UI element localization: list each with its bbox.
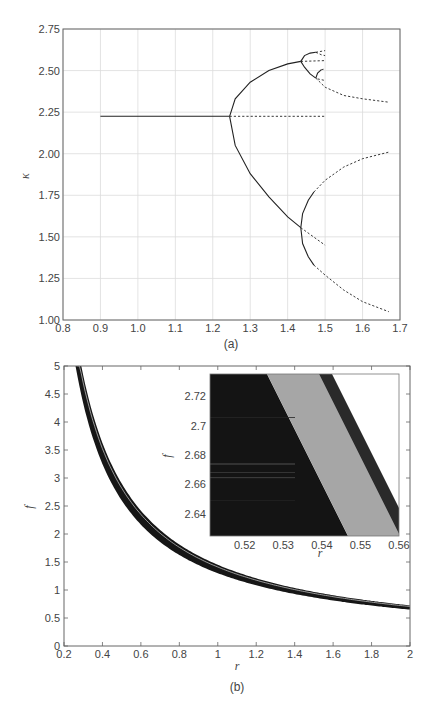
series-line — [301, 228, 325, 246]
y-tick-label: 4 — [54, 416, 60, 428]
y-tick-label: 1.75 — [39, 189, 60, 201]
y-tick-label: 2 — [54, 528, 60, 540]
inset-x-tick-label: 0.55 — [350, 539, 371, 551]
x-tick-label: 0.4 — [95, 648, 110, 660]
x-tick-label: 1.5 — [317, 322, 332, 334]
y-tick-label: 3 — [54, 472, 60, 484]
chart-a-series — [100, 51, 388, 312]
inset-x-tick-label: 0.56 — [388, 539, 409, 551]
x-tick-label: 2 — [407, 648, 413, 660]
chart-b-y-axis-label: f — [22, 504, 36, 509]
y-tick-label: 2.25 — [39, 106, 60, 118]
x-tick-label: 1 — [215, 648, 221, 660]
inset-stripe — [210, 472, 295, 473]
x-tick-label: 1.7 — [392, 322, 407, 334]
inset-y-tick-label: 2.64 — [185, 508, 206, 520]
series-line — [230, 61, 301, 116]
series-line — [301, 228, 314, 265]
y-tick-label: 1.25 — [39, 272, 60, 284]
chart-b-caption: (b) — [230, 680, 245, 694]
chart-a-caption: (a) — [224, 337, 239, 351]
chart-a-y-tick-labels: 1.001.251.501.752.002.252.502.75 — [39, 23, 60, 326]
x-tick-label: 1.1 — [168, 322, 183, 334]
series-line — [301, 61, 325, 62]
inset-y-tick-label: 2.7 — [191, 420, 206, 432]
chart-a-bifurcation-diagram: 0.80.91.01.11.21.31.41.51.61.7 1.001.251… — [18, 23, 408, 351]
chart-a-y-axis-label: κ — [18, 173, 32, 179]
inset-stripe — [210, 477, 295, 478]
figure: 0.80.91.01.11.21.31.41.51.61.7 1.001.251… — [0, 0, 431, 706]
y-tick-label: 1.50 — [39, 231, 60, 243]
y-tick-label: 4.5 — [45, 388, 60, 400]
inset-stripe — [210, 417, 295, 418]
chart-b-x-axis-label: r — [235, 659, 240, 673]
y-tick-label: 0.5 — [45, 612, 60, 624]
y-tick-label: 2.50 — [39, 65, 60, 77]
y-tick-label: 1.5 — [45, 556, 60, 568]
chart-a-frame — [63, 29, 400, 320]
x-tick-label: 0.9 — [93, 322, 108, 334]
series-line — [301, 61, 316, 78]
y-tick-label: 5 — [54, 360, 60, 372]
inset-stripe — [210, 463, 295, 465]
x-tick-label: 1.2 — [205, 322, 220, 334]
x-tick-label: 1.4 — [280, 322, 295, 334]
inset-y-axis-label: f — [160, 453, 174, 458]
chart-a-grid — [63, 29, 400, 320]
series-line — [318, 79, 326, 81]
y-tick-label: 2.75 — [39, 23, 60, 35]
inset-x-tick-label: 0.52 — [234, 539, 255, 551]
series-line — [316, 78, 389, 102]
inset-y-tick-label: 2.66 — [185, 478, 206, 490]
x-tick-label: 0.6 — [133, 648, 148, 660]
x-tick-label: 1.6 — [355, 322, 370, 334]
series-line — [321, 69, 325, 70]
series-line — [316, 51, 325, 53]
inset-x-tick-label: 0.53 — [273, 539, 294, 551]
inset-y-tick-label: 2.68 — [185, 449, 206, 461]
inset-y-tick-label: 2.72 — [185, 390, 206, 402]
x-tick-label: 0.8 — [172, 648, 187, 660]
x-tick-label: 1.3 — [243, 322, 258, 334]
x-tick-label: 1.6 — [325, 648, 340, 660]
y-tick-label: 3.5 — [45, 444, 60, 456]
x-tick-label: 1.0 — [130, 322, 145, 334]
chart-b-y-tick-labels: 00.511.522.533.544.55 — [45, 360, 60, 652]
x-tick-label: 1.2 — [249, 648, 264, 660]
series-line — [230, 116, 301, 227]
y-tick-label: 1 — [54, 584, 60, 596]
series-line — [301, 52, 316, 61]
inset-x-axis-label: r — [318, 546, 323, 560]
y-tick-label: 0 — [54, 640, 60, 652]
chart-b-frequency-band: 0.20.40.60.811.21.41.61.82 00.511.522.53… — [22, 360, 413, 694]
y-tick-label: 2.00 — [39, 148, 60, 160]
series-line — [301, 192, 314, 228]
inset-stripe — [210, 500, 295, 501]
chart-b-inset: 0.520.530.540.550.56 2.642.662.682.72.72… — [160, 374, 410, 560]
x-tick-label: 1.8 — [364, 648, 379, 660]
chart-a-x-tick-labels: 0.80.91.01.11.21.31.41.51.61.7 — [55, 322, 407, 334]
y-tick-label: 2.5 — [45, 500, 60, 512]
inset-y-tick-labels: 2.642.662.682.72.72 — [185, 390, 206, 520]
series-line — [316, 52, 325, 55]
x-tick-label: 1.4 — [287, 648, 302, 660]
y-tick-label: 1.00 — [39, 314, 60, 326]
